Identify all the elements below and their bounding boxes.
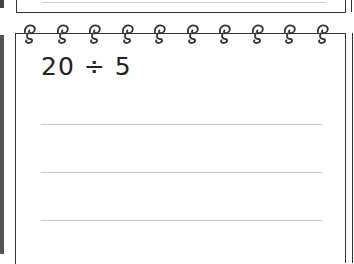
spiral-ring-icon	[22, 23, 38, 45]
answer-line	[41, 124, 322, 125]
previous-page-rule	[42, 2, 326, 3]
spiral-ring-icon	[315, 23, 331, 45]
spiral-ring-icon	[250, 23, 266, 45]
math-problem: 20 ÷ 5	[41, 52, 132, 81]
answer-line	[41, 220, 322, 221]
spiral-ring-icon	[55, 23, 71, 45]
spiral-ring-icon	[217, 23, 233, 45]
spiral-ring-icon	[282, 23, 298, 45]
left-edge-strip	[0, 35, 4, 254]
page-stack-edge	[345, 33, 353, 263]
spiral-ring-icon	[120, 23, 136, 45]
spiral-ring-icon	[152, 23, 168, 45]
answer-line	[41, 172, 322, 173]
spiral-ring-icon	[87, 23, 103, 45]
left-edge-strip	[0, 0, 4, 8]
previous-page-edge	[345, 0, 352, 12]
spiral-ring-icon	[185, 23, 201, 45]
